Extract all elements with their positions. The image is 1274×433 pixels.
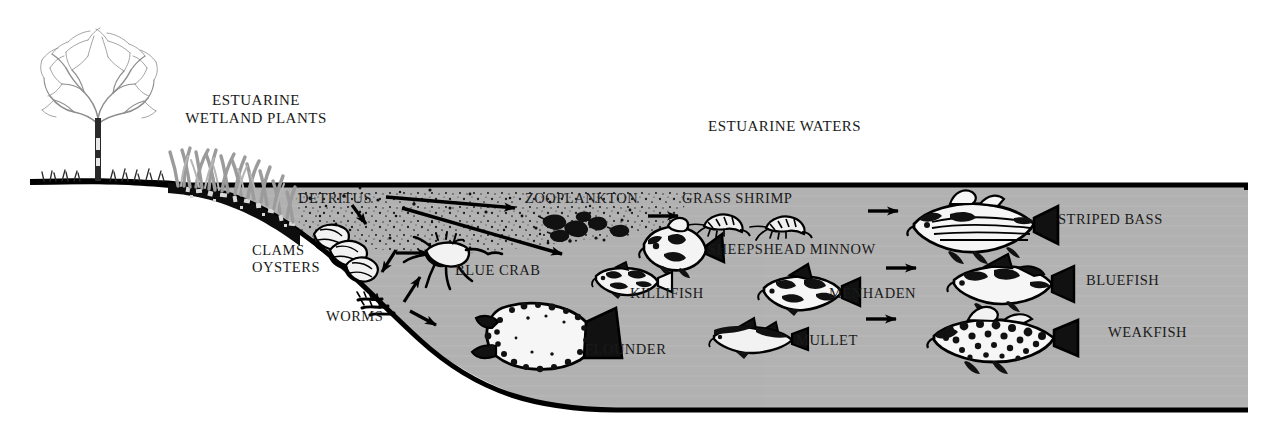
label-menhaden: MENHADEN (829, 285, 916, 302)
tree-icon (41, 28, 158, 181)
label-sheepshead-minnow: SHEEPSHEAD MINNOW (708, 241, 876, 258)
heading-estuarine-waters: ESTUARINE WATERS (708, 118, 861, 136)
label-killifish: KILLIFISH (630, 285, 704, 302)
label-clams: CLAMS (252, 242, 304, 259)
wetland-heading-line2: WETLAND PLANTS (176, 110, 336, 128)
label-bluefish: BLUEFISH (1086, 272, 1159, 289)
heading-estuarine-wetland-plants: ESTUARINE WETLAND PLANTS (176, 92, 336, 127)
label-striped-bass: STRIPED BASS (1058, 211, 1163, 228)
label-blue-crab: BLUE CRAB (455, 262, 540, 279)
estuarine-food-web-diagram: ESTUARINE WETLAND PLANTS ESTUARINE WATER… (0, 0, 1274, 433)
label-grass-shrimp: GRASS SHRIMP (682, 190, 792, 207)
label-mullet: MULLET (796, 332, 858, 349)
label-oysters: OYSTERS (252, 259, 320, 276)
label-worms: WORMS (326, 308, 383, 325)
label-detritus: DETRITUS (298, 190, 372, 207)
label-zooplankton: ZOOPLANKTON (525, 190, 638, 207)
label-weakfish: WEAKFISH (1108, 324, 1187, 341)
label-flounder: FLOUNDER (585, 341, 666, 358)
wetland-heading-line1: ESTUARINE (176, 92, 336, 110)
